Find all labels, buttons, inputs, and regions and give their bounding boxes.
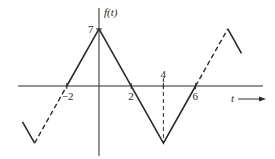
t-axis-arrow	[238, 97, 266, 102]
t-axis-label: t	[231, 92, 235, 104]
x-tick-label: 2	[128, 90, 134, 102]
x-tick-label: 6	[193, 90, 199, 102]
f-axis-label: f(t)	[104, 6, 118, 19]
y-tick-label: 7	[88, 23, 94, 35]
series-line-4	[196, 29, 228, 86]
series-line-5	[228, 29, 242, 54]
series-line-1	[67, 29, 99, 86]
series-line-3	[23, 122, 35, 143]
triangle-wave-chart: t f(t) −22467	[0, 0, 275, 159]
